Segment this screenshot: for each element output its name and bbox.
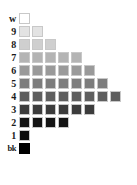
swatch-cell [110,91,121,102]
row-label: 5 [0,77,19,90]
swatch-cell [58,117,69,128]
row-label: 9 [0,25,19,38]
swatch-cell [32,91,43,102]
swatch-cell [58,104,69,115]
swatch-cell [84,78,95,89]
chart-row: 1 [0,129,137,142]
chart-row: 3 [0,103,137,116]
swatch-cell [32,52,43,63]
swatch-cell [32,26,43,37]
chart-row: 6 [0,64,137,77]
swatch-cell [32,117,43,128]
swatch-cell [97,78,108,89]
swatch-cell [71,65,82,76]
swatch-cell [19,104,30,115]
row-label: 1 [0,129,19,142]
chart-row: 5 [0,77,137,90]
swatch-cell [58,78,69,89]
swatch-cell [45,91,56,102]
row-label: 4 [0,90,19,103]
swatch-cell [45,65,56,76]
swatch-cell [58,52,69,63]
swatch-cell [32,78,43,89]
swatch-cell [71,91,82,102]
row-label: 6 [0,64,19,77]
row-label: 8 [0,38,19,51]
swatch-cell [84,91,95,102]
swatch-cell [19,26,30,37]
row-swatches [19,39,56,50]
row-swatches [19,104,95,115]
swatch-cell [45,39,56,50]
row-label: 3 [0,103,19,116]
swatch-cell [97,91,108,102]
swatch-cell [71,104,82,115]
swatch-cell [45,117,56,128]
row-swatches [19,26,43,37]
chart-row: 7 [0,51,137,64]
swatch-cell [19,52,30,63]
row-swatches [19,143,30,154]
swatch-cell [19,39,30,50]
chart-row: bk [0,142,137,155]
chart-row: 9 [0,25,137,38]
swatch-cell [32,39,43,50]
swatch-cell [19,130,30,141]
row-label: w [0,12,19,25]
swatch-cell [71,78,82,89]
row-swatches [19,91,121,102]
swatch-cell [19,117,30,128]
swatch-cell [84,65,95,76]
swatch-cell [32,65,43,76]
swatch-cell [32,104,43,115]
swatch-cell [45,104,56,115]
row-label: 2 [0,116,19,129]
row-swatches [19,52,82,63]
swatch-cell [58,91,69,102]
chart-rows: w987654321bk [0,12,137,155]
swatch-cell [19,65,30,76]
swatch-cell [71,52,82,63]
swatch-cell [19,78,30,89]
swatch-cell [45,52,56,63]
chart-row: 8 [0,38,137,51]
row-swatches [19,117,69,128]
swatch-cell [19,143,30,154]
chart-row: 2 [0,116,137,129]
row-swatches [19,13,30,24]
swatch-cell [19,91,30,102]
chart-row: w [0,12,137,25]
row-swatches [19,130,30,141]
row-label: 7 [0,51,19,64]
chart-row: 4 [0,90,137,103]
swatch-cell [45,78,56,89]
swatch-cell [84,104,95,115]
swatch-cell [58,65,69,76]
swatch-cell [19,13,30,24]
row-swatches [19,65,95,76]
row-label: bk [0,142,19,155]
grayscale-step-wedge-chart: w987654321bk [0,0,137,185]
row-swatches [19,78,108,89]
